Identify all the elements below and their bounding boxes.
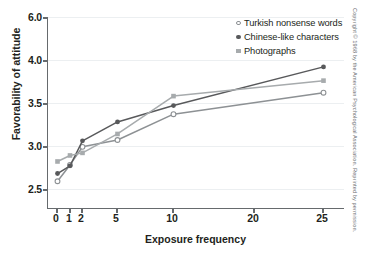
- y-tick-mark: [43, 146, 47, 148]
- series-turkish-nonsense-words: [55, 90, 326, 183]
- legend-item-photographs: Photographs: [233, 45, 345, 57]
- x-tick-mark: [172, 209, 174, 213]
- chart-legend: Turkish nonsense words Chinese-like char…: [233, 17, 345, 59]
- data-point-open-circle: [321, 90, 326, 95]
- x-tick-mark: [253, 209, 255, 213]
- data-point-square: [321, 78, 326, 83]
- data-point-filled-circle: [115, 120, 120, 125]
- legend-item-chinese-like-characters: Chinese-like characters: [233, 31, 345, 43]
- x-tick-mark: [116, 209, 118, 213]
- y-tick-mark: [43, 103, 47, 105]
- x-tick-mark: [81, 209, 83, 213]
- data-point-filled-circle: [171, 103, 176, 108]
- x-tick-label: 2: [69, 212, 93, 224]
- figure-container: 6.0 4.0 3.5 3.0 2.5 Favorability of atti…: [0, 0, 381, 266]
- filled-square-icon: [233, 49, 244, 54]
- data-point-square: [80, 151, 85, 156]
- y-tick-mark: [43, 189, 47, 191]
- x-axis-title: Exposure frequency: [47, 233, 344, 245]
- data-point-filled-circle: [80, 138, 85, 143]
- data-point-square: [68, 153, 73, 158]
- data-point-open-circle: [115, 138, 120, 143]
- legend-label: Photographs: [244, 46, 296, 56]
- data-point-filled-circle: [55, 171, 60, 176]
- data-point-square: [171, 94, 176, 99]
- x-tick-label: 10: [160, 212, 184, 224]
- x-tick-label: 20: [241, 212, 265, 224]
- x-tick-mark: [322, 209, 324, 213]
- legend-label: Turkish nonsense words: [244, 18, 342, 28]
- x-tick-mark: [69, 209, 71, 213]
- data-point-open-circle: [55, 179, 60, 184]
- data-point-open-circle: [171, 112, 176, 117]
- legend-item-turkish-nonsense-words: Turkish nonsense words: [233, 17, 345, 29]
- series-photographs: [55, 78, 326, 163]
- filled-circle-icon: [233, 35, 244, 40]
- x-tick-label: 25: [310, 212, 334, 224]
- data-point-filled-circle: [321, 64, 326, 69]
- y-tick-mark: [43, 60, 47, 62]
- series-line: [58, 81, 324, 162]
- open-circle-icon: [233, 21, 244, 26]
- y-tick-mark: [43, 17, 47, 19]
- x-tick-mark: [56, 209, 58, 213]
- data-point-square: [115, 132, 120, 137]
- data-point-square: [55, 159, 60, 164]
- series-chinese-like-characters: [55, 64, 326, 175]
- y-axis-title: Favorability of attitude: [10, 14, 22, 154]
- copyright-notice: Copyright © 1968 by the American Psychol…: [351, 8, 358, 258]
- legend-label: Chinese-like characters: [244, 32, 339, 42]
- data-point-filled-circle: [68, 163, 73, 168]
- y-tick-label: 2.5: [12, 183, 42, 195]
- x-tick-label: 5: [104, 212, 128, 224]
- series-line: [58, 93, 324, 182]
- series-line: [58, 67, 324, 174]
